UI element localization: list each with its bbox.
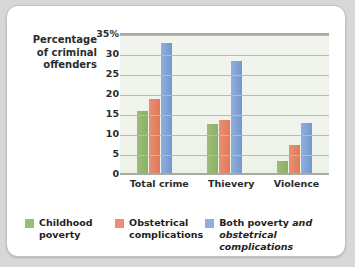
y-axis-tick-label: 15 [106, 108, 119, 119]
legend-item-both-poverty-and-obstetrical-complications: Both poverty and obstetrical complicatio… [205, 217, 335, 251]
gridline [120, 135, 329, 136]
legend-label: Childhood poverty [39, 217, 93, 241]
gridline [120, 55, 329, 56]
bar [137, 111, 148, 173]
y-axis-tick-label: 5 [112, 148, 119, 159]
bar [231, 61, 242, 173]
bar [161, 43, 172, 173]
bar [277, 161, 288, 173]
legend-label-line-2: complications [129, 229, 203, 240]
legend-label: Both poverty and obstetrical complicatio… [219, 217, 335, 253]
y-axis-tick-label: 20 [106, 88, 119, 99]
legend-label-line-1: Obstetrical [129, 217, 188, 228]
plot-area [120, 33, 329, 175]
y-axis-tick-labels: 05101520253035% [85, 30, 119, 190]
gridline [120, 95, 329, 96]
legend-swatch-icon [115, 219, 124, 228]
x-axis-tick-label: Thievery [208, 178, 254, 194]
bar [207, 124, 218, 173]
chart-card: Percentage of criminal offenders 0510152… [6, 5, 346, 257]
legend-label: Obstetrical complications [129, 217, 203, 241]
y-axis-tick-label: 10 [106, 128, 119, 139]
legend-label-line-1-emphasis: and [292, 217, 312, 228]
gridline [120, 75, 329, 76]
y-axis-tick-label: 25 [106, 68, 119, 79]
legend-label-line-2: poverty [39, 229, 80, 240]
legend-item-childhood-poverty: Childhood poverty [25, 217, 115, 251]
y-axis-tick-label: 35% [96, 28, 119, 39]
gridline [120, 35, 329, 36]
chart-legend: Childhood poverty Obstetrical complicati… [25, 217, 335, 251]
y-axis-tick-label: 30 [106, 48, 119, 59]
legend-item-obstetrical-complications: Obstetrical complications [115, 217, 205, 251]
legend-label-line-2: obstetrical complications [219, 229, 293, 252]
x-axis-tick-label: Violence [274, 178, 320, 194]
x-axis-tick-labels: Total crimeThieveryViolence [120, 178, 329, 194]
bar [289, 145, 300, 173]
x-axis-line [120, 173, 329, 175]
legend-label-line-1a: Both poverty [219, 217, 292, 228]
bar [219, 120, 230, 173]
legend-label-line-1: Childhood [39, 217, 93, 228]
gridline [120, 115, 329, 116]
legend-swatch-icon [25, 219, 34, 228]
legend-swatch-icon [205, 219, 214, 228]
gridline [120, 155, 329, 156]
bar [301, 123, 312, 173]
x-axis-tick-label: Total crime [130, 178, 189, 194]
y-axis-tick-label: 0 [112, 168, 119, 179]
